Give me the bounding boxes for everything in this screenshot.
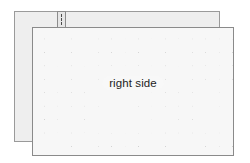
notch-dash-line [61, 14, 62, 25]
fabric-layers-diagram: wrong side right side [0, 0, 250, 163]
right-side-label: right side [33, 76, 233, 90]
notch-tab [57, 11, 66, 28]
right-side-label-text: right side [102, 76, 164, 90]
right-side-panel: right side [32, 27, 234, 156]
